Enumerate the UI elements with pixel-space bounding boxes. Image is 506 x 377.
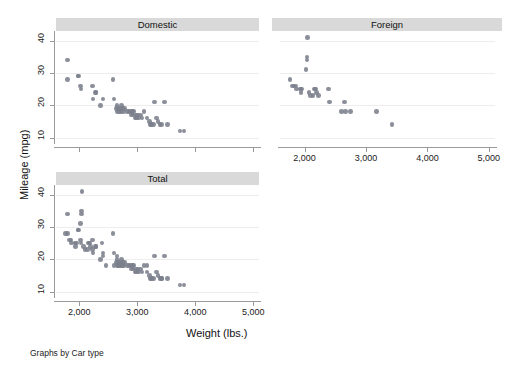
- x-axis-line: [278, 147, 497, 148]
- graph-figure: Mileage (mpg) Domestic Foreign Total Wei…: [0, 0, 506, 377]
- y-tick: [50, 195, 54, 196]
- scatter-point: [94, 90, 99, 95]
- gridline: [56, 41, 259, 42]
- y-tick: [50, 73, 54, 74]
- scatter-point: [316, 93, 321, 98]
- y-tick: [50, 105, 54, 106]
- x-tick: [366, 148, 367, 152]
- graph-note: Graphs by Car type: [30, 348, 104, 358]
- gridline: [280, 73, 495, 74]
- panel-domestic: Domestic: [46, 18, 259, 158]
- y-axis-line: [54, 31, 55, 144]
- scatter-point: [78, 221, 83, 226]
- scatter-point: [159, 122, 164, 127]
- x-tick-label: 2,000: [59, 307, 99, 317]
- gridline: [280, 105, 495, 106]
- panel-title-total: Total: [56, 172, 259, 185]
- y-tick-label: 40: [36, 33, 46, 47]
- x-tick: [253, 148, 254, 152]
- x-tick-label: 2,000: [285, 153, 325, 163]
- x-tick-label: 5,000: [469, 153, 506, 163]
- gridline: [280, 138, 495, 139]
- x-tick: [427, 148, 428, 152]
- scatter-point: [343, 109, 348, 114]
- y-tick-label: 30: [36, 65, 46, 79]
- gridline: [56, 292, 259, 293]
- y-tick-label: 40: [36, 187, 46, 201]
- y-tick-label: 30: [36, 219, 46, 233]
- y-tick: [50, 259, 54, 260]
- y-tick: [50, 41, 54, 42]
- gridline: [56, 105, 259, 106]
- scatter-point: [151, 122, 156, 127]
- scatter-point: [162, 100, 167, 105]
- y-tick: [50, 227, 54, 228]
- gridline: [56, 227, 259, 228]
- scatter-point: [162, 254, 167, 259]
- scatter-point: [90, 84, 95, 89]
- scatter-point: [159, 276, 164, 281]
- scatter-point: [90, 238, 95, 243]
- x-tick-label: 3,000: [117, 307, 157, 317]
- x-tick: [253, 302, 254, 306]
- y-axis-line: [54, 185, 55, 298]
- x-tick: [137, 148, 138, 152]
- x-tick-label: 3,000: [346, 153, 386, 163]
- x-tick: [489, 148, 490, 152]
- scatter-point: [304, 67, 309, 72]
- gridline: [56, 73, 259, 74]
- y-tick-label: 10: [36, 130, 46, 144]
- scatter-point: [111, 77, 116, 82]
- x-tick: [79, 302, 80, 306]
- x-tick: [137, 302, 138, 306]
- x-tick: [195, 302, 196, 306]
- scatter-point: [80, 189, 85, 194]
- y-tick-label: 20: [36, 97, 46, 111]
- y-tick: [50, 292, 54, 293]
- scatter-point: [165, 122, 170, 127]
- panel-title-foreign: Foreign: [272, 18, 502, 31]
- x-axis-title: Weight (lbs.): [186, 327, 248, 339]
- scatter-point: [65, 77, 70, 82]
- x-tick-label: 4,000: [407, 153, 447, 163]
- y-tick-label: 10: [36, 284, 46, 298]
- scatter-point: [305, 35, 310, 40]
- gridline: [56, 195, 259, 196]
- scatter-point: [342, 100, 347, 105]
- gridline: [56, 138, 259, 139]
- scatter-point: [79, 212, 84, 217]
- scatter-point: [288, 77, 293, 82]
- scatter-point: [65, 231, 70, 236]
- scatter-point: [111, 231, 116, 236]
- scatter-point: [94, 244, 99, 249]
- scatter-point: [98, 103, 103, 108]
- x-axis-line: [54, 147, 261, 148]
- x-axis-line: [54, 301, 261, 302]
- x-tick-label: 5,000: [233, 307, 273, 317]
- scatter-point: [165, 276, 170, 281]
- scatter-point: [348, 109, 353, 114]
- gridline: [280, 41, 495, 42]
- x-tick: [305, 148, 306, 152]
- scatter-point: [374, 109, 379, 114]
- y-axis-title: Mileage (mpg): [18, 130, 30, 200]
- gridline: [56, 259, 259, 260]
- y-tick: [50, 138, 54, 139]
- x-tick-label: 4,000: [175, 307, 215, 317]
- y-tick-label: 20: [36, 251, 46, 265]
- scatter-point: [390, 122, 395, 127]
- x-tick: [195, 148, 196, 152]
- scatter-point: [104, 263, 109, 268]
- x-tick: [79, 148, 80, 152]
- scatter-point: [151, 276, 156, 281]
- panel-title-domestic: Domestic: [56, 18, 259, 31]
